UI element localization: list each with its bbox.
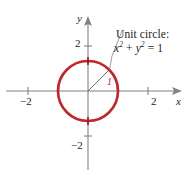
y-axis-label: y <box>77 13 82 24</box>
equation-equals-one: = 1 <box>145 42 163 54</box>
annotation-equation: x2 + y2 = 1 <box>114 43 163 55</box>
unit-circle-figure: −2 2 2 −2 x y Unit circle: x2 + y2 = 1 1 <box>0 0 188 183</box>
x-axis-tick-label-pos2: 2 <box>151 96 157 107</box>
annotation-leader-line <box>110 56 113 70</box>
equation-plus: + <box>123 42 136 54</box>
x-axis-label: x <box>176 96 181 107</box>
y-axis-tick-label-pos2: 2 <box>75 38 81 49</box>
annotation-title: Unit circle: <box>116 29 169 41</box>
radius-length-label: 1 <box>107 77 112 87</box>
x-axis-tick-label-neg2: −2 <box>20 96 32 107</box>
y-axis-tick-label-neg2: −2 <box>71 140 83 151</box>
